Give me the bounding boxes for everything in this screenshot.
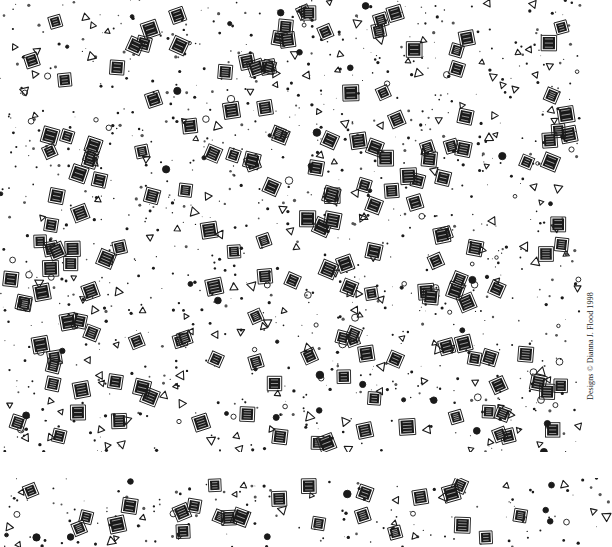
dot-motif: [320, 126, 323, 129]
dot-motif: [219, 449, 221, 451]
triangle-motif: [272, 82, 277, 88]
circle-motif: [564, 519, 570, 525]
dot-motif: [63, 228, 65, 230]
circle-motif: [277, 9, 283, 15]
dot-motif: [305, 394, 307, 396]
square-motif: [57, 73, 71, 87]
dot-motif: [453, 538, 455, 540]
dot-motif: [488, 68, 491, 71]
dot-motif: [25, 261, 27, 263]
dot-motif: [175, 360, 178, 363]
dot-motif: [525, 406, 526, 407]
triangle-motif: [7, 403, 13, 408]
dot-motif: [270, 294, 273, 297]
dot-motif: [562, 539, 565, 542]
circle-motif: [188, 282, 193, 287]
dot-motif: [288, 186, 290, 188]
dot-motif: [46, 420, 48, 422]
dot-motif: [233, 264, 236, 267]
square-motif: [482, 405, 495, 418]
dot-motif: [564, 340, 566, 342]
dot-motif: [530, 219, 531, 220]
dot-motif: [401, 234, 404, 237]
dot-motif: [337, 316, 339, 318]
dot-motif: [67, 295, 69, 297]
dot-motif: [407, 137, 410, 140]
triangle-motif: [547, 106, 554, 113]
dot-motif: [304, 426, 307, 429]
dot-motif: [42, 31, 44, 33]
dot-motif: [538, 50, 539, 51]
circle-motif: [228, 22, 232, 26]
dot-motif: [193, 281, 196, 284]
dot-motif: [292, 389, 295, 392]
dot-motif: [551, 278, 554, 281]
dot-motif: [563, 432, 566, 435]
pattern-artwork: [0, 0, 612, 452]
dot-motif: [145, 540, 147, 542]
dot-motif: [396, 516, 398, 518]
dot-motif: [354, 276, 356, 278]
dot-motif: [352, 75, 353, 76]
dot-motif: [521, 397, 523, 399]
dot-motif: [155, 449, 158, 452]
square-motif: [367, 392, 381, 406]
dot-motif: [246, 282, 247, 283]
dot-motif: [397, 1, 398, 2]
triangle-motif: [485, 133, 494, 141]
dot-motif: [130, 0, 131, 1]
square-motif: [192, 413, 211, 432]
dot-motif: [109, 393, 110, 394]
dot-motif: [8, 187, 10, 189]
dot-motif: [136, 330, 137, 331]
dot-motif: [303, 407, 305, 409]
dot-motif: [395, 388, 397, 390]
dot-motif: [263, 447, 266, 450]
dot-motif: [535, 140, 537, 142]
dot-motif: [500, 123, 501, 124]
triangle-motif: [326, 0, 332, 5]
dot-motif: [419, 123, 422, 126]
dot-motif: [556, 358, 557, 359]
dot-motif: [241, 148, 243, 150]
dot-motif: [0, 293, 1, 294]
dot-motif: [224, 304, 227, 307]
triangle-motif: [160, 391, 168, 399]
dot-motif: [421, 366, 422, 367]
dot-motif: [211, 434, 213, 436]
dot-motif: [410, 119, 412, 121]
dot-motif: [410, 73, 413, 76]
dot-motif: [203, 146, 204, 147]
square-motif: [257, 99, 274, 116]
dot-motif: [435, 313, 437, 315]
dot-motif: [384, 290, 386, 292]
dot-motif: [137, 524, 140, 527]
dot-motif: [305, 289, 307, 291]
dot-motif: [436, 15, 439, 18]
dot-motif: [98, 343, 100, 345]
dot-motif: [13, 497, 16, 500]
dot-motif: [229, 188, 231, 190]
circle-motif: [26, 271, 33, 278]
dot-motif: [219, 201, 220, 202]
dot-motif: [287, 61, 289, 63]
dot-motif: [268, 495, 270, 497]
dot-motif: [118, 15, 120, 17]
dot-motif: [451, 188, 453, 190]
circle-motif: [543, 507, 549, 513]
dot-motif: [154, 447, 156, 449]
dot-motif: [15, 127, 16, 128]
triangle-motif: [98, 380, 104, 387]
dot-motif: [470, 195, 473, 198]
square-motif: [284, 272, 302, 290]
triangle-motif: [92, 306, 99, 314]
dot-motif: [376, 55, 377, 56]
dot-motif: [188, 487, 191, 490]
dot-motif: [421, 130, 422, 131]
dot-motif: [392, 381, 394, 383]
dot-motif: [508, 539, 511, 542]
dot-motif: [152, 206, 154, 208]
dot-motif: [402, 331, 404, 333]
dot-motif: [53, 286, 56, 289]
dot-motif: [161, 288, 162, 289]
